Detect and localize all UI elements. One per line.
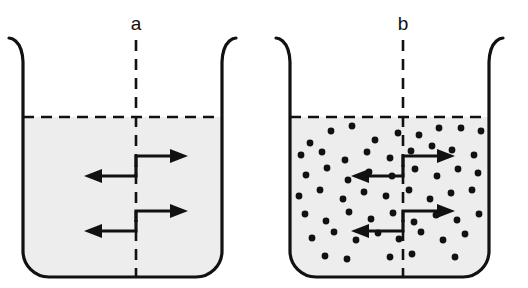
solute-particle [342,157,349,164]
solute-particle [412,166,419,173]
solute-particle [462,231,469,238]
solute-particle [436,125,443,132]
solute-particle [296,193,303,200]
solute-particle [346,209,353,216]
solute-particle [345,177,352,184]
solute-particle [372,137,379,144]
solute-particle [322,253,329,260]
solute-particle [478,128,485,135]
solute-particle [427,196,434,203]
solute-particle [353,237,360,244]
solute-particle [471,152,478,159]
solute-particle [395,130,402,137]
solute-particle [317,187,324,194]
solute-particle [302,211,309,218]
solute-particle [408,148,415,155]
solute-particle [449,147,456,154]
solute-particle [387,254,394,261]
solute-particle [361,189,368,196]
solute-particle [303,172,310,179]
diagram-canvas: a [0,0,528,288]
solute-particle [452,254,459,261]
solute-particle [323,218,330,225]
solute-particle [429,143,436,150]
panel-b: b [276,13,503,277]
solute-particle [411,219,418,226]
solute-particle [319,149,326,156]
solute-particle [309,235,316,242]
panel-label-a: a [131,13,142,34]
solute-particle [476,211,483,218]
solute-particle [368,216,375,223]
solute-particle [455,166,462,173]
liquid-fill-a [23,117,222,277]
solute-particle [396,236,403,243]
solute-particle [406,187,413,194]
solute-particle [387,155,394,162]
solute-particle [409,251,416,258]
solute-particle [328,128,335,135]
solute-particle [383,193,390,200]
solute-particle [469,187,476,194]
solute-particle [458,125,465,132]
solute-particle [418,229,425,236]
solute-particle [340,196,347,203]
solute-particle [440,237,447,244]
solute-particle [298,152,305,159]
solute-particle [344,256,351,263]
liquid-fill-b [290,117,489,277]
solute-particle [448,190,455,197]
solute-particle [349,123,356,130]
solute-particle [434,173,441,180]
panel-a: a [9,13,236,277]
solute-particle [307,140,314,147]
panel-label-b: b [398,13,409,34]
solute-particle [416,132,423,139]
solute-particle [454,217,461,224]
solute-particle [324,165,331,172]
solute-particle [475,170,482,177]
solute-particle [331,229,338,236]
solute-particle [390,210,397,217]
solute-particle [364,149,371,156]
diffusion-figure: a [0,0,528,288]
